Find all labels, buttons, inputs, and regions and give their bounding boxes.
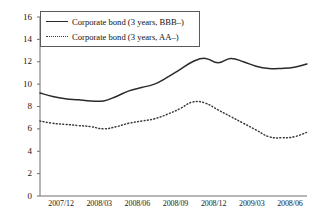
corporate-bond-yield-chart: 0246810121416 2007/122008/032008/062008/… — [0, 0, 318, 223]
legend-item-bbb: Corporate bond (3 years, BBB–) — [46, 15, 184, 29]
y-tick-label: 6 — [10, 124, 32, 133]
y-tick-label: 8 — [10, 102, 32, 111]
series-line-bbb — [40, 58, 307, 101]
legend-label-bbb: Corporate bond (3 years, BBB–) — [72, 17, 184, 27]
legend-label-aa: Corporate bond (3 years, AA–) — [72, 32, 179, 42]
chart-legend: Corporate bond (3 years, BBB–) Corporate… — [40, 11, 200, 47]
y-tick-label: 2 — [10, 169, 32, 178]
x-tick-label: 2008/06 — [267, 199, 313, 208]
y-tick-label: 12 — [10, 57, 32, 66]
y-tick-label: 0 — [10, 192, 32, 201]
y-tick-label: 16 — [10, 13, 32, 22]
legend-item-aa: Corporate bond (3 years, AA–) — [46, 30, 179, 44]
dotted-line-swatch-icon — [46, 33, 68, 41]
solid-line-swatch-icon — [46, 18, 68, 26]
y-tick-label: 14 — [10, 35, 32, 44]
y-tick-label: 4 — [10, 147, 32, 156]
y-tick-label: 10 — [10, 80, 32, 89]
series-line-aa — [40, 101, 307, 138]
